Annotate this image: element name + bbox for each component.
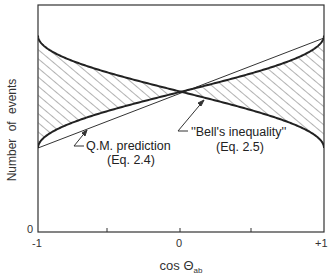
y-axis-label: Number of events	[5, 79, 19, 182]
x-tick-neg1: -1	[32, 238, 42, 249]
qm-prediction-label: Q.M. prediction	[86, 140, 171, 153]
x-ticks	[107, 228, 251, 232]
x-tick-0: 0	[176, 238, 182, 249]
x-axis-label-sub: ab	[194, 266, 203, 275]
x-tick-pos1: +1	[315, 238, 328, 249]
qm-equation-label: (Eq. 2.4)	[107, 154, 155, 167]
y-tick-zero: 0	[27, 224, 33, 235]
bell-equation-label: (Eq. 2.5)	[216, 141, 264, 154]
bell-inequality-label: ''Bell's inequality''	[191, 126, 286, 139]
x-axis-label-main: cos Θ	[160, 258, 194, 273]
x-axis-label: cos Θab	[160, 258, 203, 275]
